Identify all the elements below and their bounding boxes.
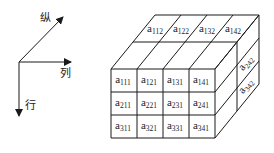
front-cell-label: a241: [193, 96, 209, 111]
side-back-cell-label: a242: [235, 52, 257, 74]
top-back-cell-label: a142: [225, 22, 241, 37]
side-back-cell-label: a342: [235, 75, 257, 97]
axis-label-column: 列: [60, 66, 71, 80]
top-back-cell-label: a132: [199, 22, 215, 37]
front-cell-label: a341: [193, 119, 209, 134]
front-cell-label: a141: [193, 73, 209, 88]
front-cell-label: a131: [167, 73, 183, 88]
top-back-cell-label: a122: [173, 22, 189, 37]
front-cell-label: a321: [141, 119, 157, 134]
front-cell-label: a221: [141, 96, 157, 111]
front-cell-label: a331: [167, 119, 183, 134]
axis-label-row: 行: [25, 99, 36, 112]
top-back-cell-label: a112: [147, 22, 163, 37]
front-cell-label: a211: [115, 96, 131, 111]
front-cell-label: a111: [115, 73, 131, 88]
front-cell-label: a231: [167, 96, 183, 111]
array-3d-diagram: 纵列行a111a121a131a141a211a221a231a241a311a…: [0, 0, 274, 153]
axis-label-vertical-depth: 纵: [40, 12, 51, 25]
diagram-canvas: 纵列行a111a121a131a141a211a221a231a241a311a…: [0, 0, 274, 153]
front-cell-label: a121: [141, 73, 157, 88]
front-cell-label: a311: [115, 119, 131, 134]
